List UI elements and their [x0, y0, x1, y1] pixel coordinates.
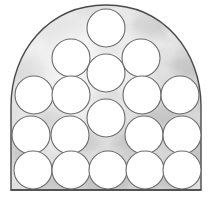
hole-circle	[52, 39, 90, 77]
hole-circle	[87, 9, 125, 47]
arch-plate-drawing	[0, 0, 213, 197]
hole-circle	[122, 39, 160, 77]
hole-circle	[89, 151, 127, 189]
hole-circle	[87, 99, 125, 137]
hole-circle	[123, 76, 161, 114]
hole-circle	[161, 76, 199, 114]
hole-circle	[52, 76, 90, 114]
hole-circle	[163, 151, 201, 189]
hole-circle	[163, 116, 201, 154]
hole-circle	[52, 151, 90, 189]
hole-circle	[14, 151, 52, 189]
hole-circle	[126, 151, 164, 189]
figure-root: Perforated arch-shaped plate Technical l…	[0, 0, 213, 197]
hole-circle	[15, 76, 53, 114]
hole-circle	[51, 116, 89, 154]
hole-circle	[87, 54, 125, 92]
hole-circle	[12, 116, 50, 154]
hole-circle	[125, 116, 163, 154]
